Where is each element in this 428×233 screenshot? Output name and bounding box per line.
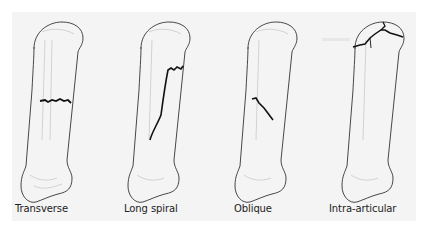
- figure-transverse: Transverse: [12, 0, 119, 233]
- figure-oblique: Oblique: [226, 0, 333, 233]
- faint-smudge: [322, 38, 350, 41]
- label-transverse: Transverse: [15, 203, 122, 214]
- bone-oblique-illustration: [226, 0, 333, 233]
- fracture-line-long-spiral: [150, 66, 183, 140]
- label-oblique: Oblique: [234, 203, 341, 214]
- fracture-line-intra-articular-branch: [381, 22, 385, 30]
- bone-intra-articular-illustration: [333, 0, 428, 233]
- fracture-line-transverse: [40, 99, 71, 103]
- label-long-spiral: Long spiral: [124, 203, 231, 214]
- figure-intra-articular: Intra-articular: [333, 0, 428, 233]
- figure-long-spiral: Long spiral: [119, 0, 226, 233]
- bone-transverse-illustration: [12, 0, 119, 233]
- label-intra-articular: Intra-articular: [329, 203, 428, 214]
- fracture-line-oblique: [252, 98, 273, 120]
- bone-long-spiral-illustration: [119, 0, 226, 233]
